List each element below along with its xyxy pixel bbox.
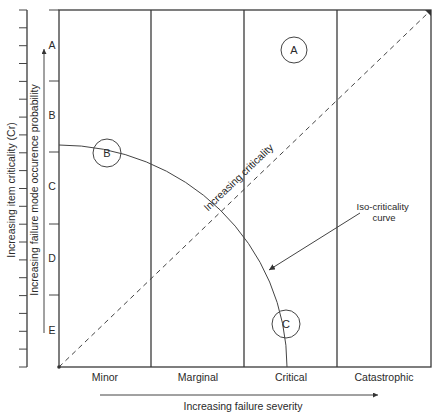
marker-c-label: C [282, 318, 290, 330]
probability-axis-label: Increasing failure mode occurence probab… [28, 84, 40, 296]
criticality-axis: Increasing item criticality (Cr) [5, 10, 27, 367]
severity-axis-label: Increasing failure severity [183, 400, 303, 412]
matrix-grid [59, 10, 431, 367]
probability-levels: A B C D E [48, 39, 56, 336]
severity-minor: Minor [92, 371, 119, 383]
criticality-matrix-diagram: Increasing item criticality (Cr) Increas… [0, 0, 436, 414]
probability-level-d: D [48, 252, 56, 264]
marker-a-label: A [290, 44, 298, 56]
marker-b: B [93, 139, 121, 167]
marker-c: C [272, 310, 300, 338]
marker-b-label: B [103, 147, 110, 159]
marker-a: A [281, 37, 307, 63]
curve-annotation-label: Iso-criticality curve [357, 201, 412, 223]
criticality-axis-label: Increasing item criticality (Cr) [5, 122, 17, 257]
criticality-axis-ticks [19, 10, 27, 367]
severity-marginal: Marginal [178, 371, 218, 383]
severity-critical: Critical [275, 371, 307, 383]
severity-catastrophic: Catastrophic [355, 371, 414, 383]
probability-level-e: E [48, 324, 55, 336]
probability-level-c: C [48, 180, 56, 192]
probability-level-a: A [48, 39, 55, 51]
severity-axis: Increasing failure severity [100, 395, 378, 412]
severity-categories: Minor Marginal Critical Catastrophic [92, 371, 414, 383]
curve-annotation: Iso-criticality curve [269, 201, 411, 270]
probability-level-b: B [48, 109, 55, 121]
probability-axis: Increasing failure mode occurence probab… [28, 49, 44, 333]
